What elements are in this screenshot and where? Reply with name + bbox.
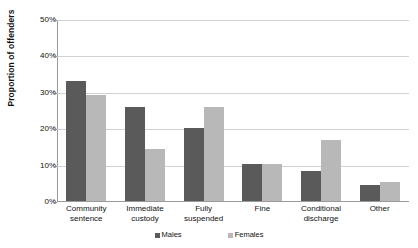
y-tick-mark: [54, 202, 57, 203]
y-axis-ticks: 0%10%20%30%40%50%: [18, 0, 56, 248]
y-tick-label: 30%: [22, 89, 56, 97]
gridline: [57, 20, 409, 21]
x-tick-label: Communitysentence: [57, 204, 116, 224]
legend-swatch-icon: [228, 233, 233, 238]
x-tick-label: Other: [350, 204, 409, 214]
gridline: [57, 93, 409, 94]
x-tick-label-line: suspended: [174, 214, 233, 224]
x-tick-label-line: custody: [116, 214, 175, 224]
bar-females-0: [86, 95, 106, 201]
x-tick-label-line: sentence: [57, 214, 116, 224]
y-tick-label: 0%: [22, 198, 56, 206]
x-tick-label-line: Immediate: [116, 204, 175, 214]
x-axis-labels: CommunitysentenceImmediatecustodyFullysu…: [57, 204, 409, 228]
bar-males-2: [184, 128, 204, 201]
bar-males-4: [301, 171, 321, 201]
legend-item-females[interactable]: Females: [228, 231, 264, 239]
y-tick-label: 20%: [22, 125, 56, 133]
bar-chart: Proportion of offenders 0%10%20%30%40%50…: [0, 0, 418, 248]
x-tick-label-line: Conditional: [292, 204, 351, 214]
bar-females-4: [321, 140, 341, 201]
legend-swatch-icon: [155, 233, 160, 238]
chart-legend: MalesFemales: [0, 229, 418, 241]
x-tick-label-line: Other: [350, 204, 409, 214]
x-axis-line: [57, 201, 409, 202]
gridline: [57, 129, 409, 130]
x-tick-label: Fine: [233, 204, 292, 214]
x-tick-label: Conditionaldischarge: [292, 204, 351, 224]
plot-area: [57, 20, 409, 202]
bar-males-5: [360, 185, 380, 201]
bar-males-0: [66, 81, 86, 201]
y-tick-label: 10%: [22, 162, 56, 170]
bar-males-1: [125, 107, 145, 201]
bar-females-3: [262, 164, 282, 201]
bar-females-2: [204, 107, 224, 201]
gridline: [57, 166, 409, 167]
gridline: [57, 56, 409, 57]
bar-males-3: [242, 164, 262, 201]
legend-label: Females: [235, 231, 264, 239]
x-tick-label-line: Fine: [233, 204, 292, 214]
legend-label: Males: [162, 231, 182, 239]
y-tick-label: 40%: [22, 52, 56, 60]
x-tick-label-line: Community: [57, 204, 116, 214]
x-tick-label-line: Fully: [174, 204, 233, 214]
y-tick-label: 50%: [22, 16, 56, 24]
x-tick-label-line: discharge: [292, 214, 351, 224]
x-tick-label: Immediatecustody: [116, 204, 175, 224]
bar-females-5: [380, 182, 400, 201]
x-tick-label: Fullysuspended: [174, 204, 233, 224]
y-axis-line: [57, 20, 58, 202]
legend-item-males[interactable]: Males: [155, 231, 182, 239]
bar-females-1: [145, 149, 165, 201]
